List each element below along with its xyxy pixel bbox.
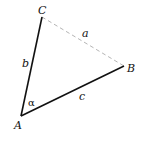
triangle-diagram: C B A a b c α <box>0 0 145 141</box>
vertex-label-c: C <box>38 5 46 16</box>
angle-label-alpha: α <box>28 98 35 108</box>
side-a-dashed <box>42 17 124 66</box>
vertex-label-a: A <box>14 120 22 131</box>
side-label-a: a <box>82 28 89 39</box>
side-c <box>21 66 124 116</box>
side-label-b: b <box>22 58 29 69</box>
vertex-label-b: B <box>127 63 135 74</box>
side-label-c: c <box>79 91 85 102</box>
